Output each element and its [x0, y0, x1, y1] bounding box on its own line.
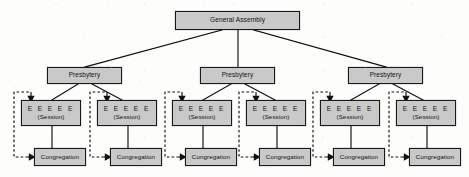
session-4-label: (Session) [262, 114, 289, 121]
node-congregation-2[interactable]: Congregation [110, 148, 162, 166]
presbytery-1-label: Presbytery [69, 72, 101, 79]
node-presbytery-1[interactable]: Presbytery [47, 67, 122, 84]
node-session-2[interactable]: E E E E E (Session) [97, 100, 157, 126]
session-1-elders: E E E E E [28, 106, 74, 113]
node-congregation-6[interactable]: Congregation [409, 148, 461, 166]
session-6-elders: E E E E E [403, 106, 449, 113]
node-congregation-5[interactable]: Congregation [333, 148, 385, 166]
congregation-1-label: Congregation [41, 154, 79, 161]
edge-assembly-to-presbytery-1 [85, 30, 222, 67]
edge-presbytery-3-to-session-5 [351, 84, 379, 100]
edge-assembly-to-presbytery-3 [254, 30, 386, 67]
general-assembly-label: General Assembly [210, 17, 265, 24]
session-1-label: (Session) [37, 114, 64, 121]
node-session-3[interactable]: E E E E E (Session) [172, 100, 232, 126]
session-3-elders: E E E E E [179, 106, 225, 113]
node-congregation-3[interactable]: Congregation [185, 148, 237, 166]
congregation-5-label: Congregation [340, 154, 378, 161]
presbytery-2-label: Presbytery [222, 72, 254, 79]
edge-presbytery-2-to-session-3 [203, 84, 231, 100]
node-congregation-4[interactable]: Congregation [259, 148, 311, 166]
node-congregation-1[interactable]: Congregation [34, 148, 86, 166]
node-session-6[interactable]: E E E E E (Session) [396, 100, 456, 126]
session-2-elders: E E E E E [104, 106, 150, 113]
congregation-3-label: Congregation [192, 154, 230, 161]
congregation-4-label: Congregation [266, 154, 304, 161]
session-2-label: (Session) [113, 114, 140, 121]
edge-presbytery-1-to-session-1 [52, 84, 78, 100]
node-presbytery-3[interactable]: Presbytery [348, 67, 423, 84]
node-session-4[interactable]: E E E E E (Session) [246, 100, 306, 126]
session-5-label: (Session) [336, 114, 363, 121]
node-session-1[interactable]: E E E E E (Session) [21, 100, 81, 126]
node-presbytery-2[interactable]: Presbytery [200, 67, 275, 84]
node-session-5[interactable]: E E E E E (Session) [320, 100, 380, 126]
edge-presbytery-2-to-session-4 [245, 84, 275, 100]
presbytery-3-label: Presbytery [370, 72, 402, 79]
node-general-assembly[interactable]: General Assembly [175, 11, 300, 30]
org-chart-diagram: General Assembly Presbytery Presbytery P… [0, 0, 469, 177]
session-4-elders: E E E E E [253, 106, 299, 113]
session-5-elders: E E E E E [327, 106, 373, 113]
congregation-6-label: Congregation [416, 154, 454, 161]
session-3-label: (Session) [188, 114, 215, 121]
congregation-2-label: Congregation [117, 154, 155, 161]
session-6-label: (Session) [412, 114, 439, 121]
